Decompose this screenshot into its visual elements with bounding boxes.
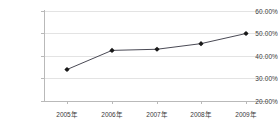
data-point-core-3 (200, 42, 203, 45)
data-point-core-2 (156, 48, 159, 51)
data-series-layer (0, 0, 278, 133)
data-point-core-1 (111, 49, 114, 52)
data-point-core-4 (245, 32, 248, 35)
series-markers (64, 31, 248, 72)
series-line (67, 34, 246, 70)
data-point-core-0 (66, 68, 69, 71)
line-chart: 60.00% 50.00% 40.00% 30.00% 20.00% 2005年… (0, 0, 278, 133)
